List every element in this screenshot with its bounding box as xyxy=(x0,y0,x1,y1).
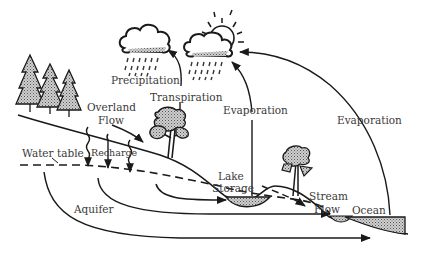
label-transpiration: Transpiration xyxy=(150,91,222,103)
label-precipitation: Precipitation xyxy=(111,74,180,86)
vapor-arrows xyxy=(168,50,390,215)
label-ocean: Ocean xyxy=(352,204,386,216)
diagram-drawing xyxy=(0,0,421,256)
label-stream: Stream xyxy=(309,190,348,202)
label-overland: Overland xyxy=(87,101,136,113)
label-lake-storage: Storage xyxy=(212,182,254,194)
overland-flow-arrow xyxy=(112,125,143,142)
rain-cloud-icon xyxy=(120,25,170,76)
label-water-table: Water table xyxy=(22,147,84,159)
deciduous-tree-icon xyxy=(150,107,188,158)
lake-water xyxy=(226,197,270,207)
water-table-line xyxy=(20,165,330,214)
hydrologic-cycle-diagram: Precipitation Transpiration Evaporation … xyxy=(0,0,421,256)
label-recharge: Recharge xyxy=(91,147,137,159)
sun-cloud-icon xyxy=(184,10,244,80)
label-evaporation-lake: Evaporation xyxy=(223,104,288,116)
label-evaporation-ocean: Evaporation xyxy=(337,114,402,126)
label-overland-flow: Flow xyxy=(98,114,124,126)
deciduous-tree-icon xyxy=(282,146,312,196)
label-lake: Lake xyxy=(218,170,244,182)
ocean-water xyxy=(345,217,405,234)
label-stream-flow: Flow xyxy=(314,203,340,215)
pine-tree-icon xyxy=(16,55,81,117)
label-aquifer: Aquifer xyxy=(74,203,114,215)
